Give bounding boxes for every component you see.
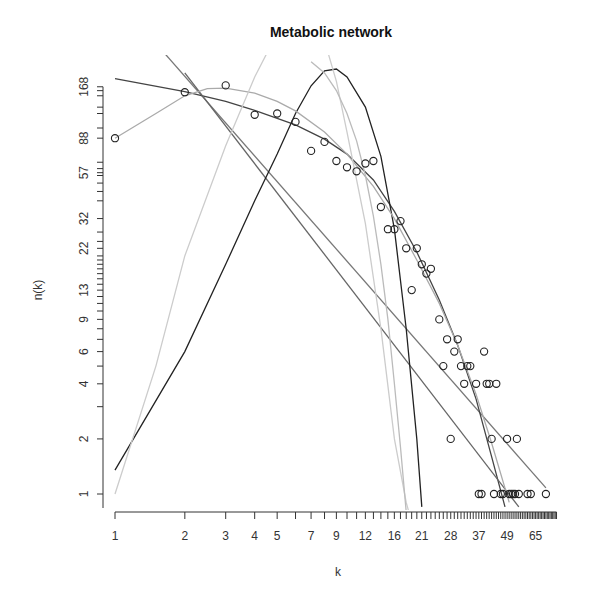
data-point: [444, 336, 451, 343]
data-point: [403, 245, 410, 252]
y-tick-label: 32: [77, 212, 91, 226]
y-tick-label: 4: [77, 380, 91, 387]
y-tick-label: 13: [77, 283, 91, 297]
data-point: [370, 157, 377, 164]
data-point: [461, 380, 468, 387]
data-point: [504, 435, 511, 442]
data-point: [473, 380, 480, 387]
data-point: [408, 287, 415, 294]
y-tick-label: 9: [77, 316, 91, 323]
y-tick-label: 6: [77, 348, 91, 355]
data-point: [493, 380, 500, 387]
fit-curves: [115, 9, 546, 523]
fit-curve: [311, 62, 406, 512]
data-point: [440, 363, 447, 370]
x-tick-label: 16: [388, 529, 402, 543]
x-tick-label: 28: [444, 529, 458, 543]
y-tick-label: 88: [77, 131, 91, 145]
data-point: [490, 490, 497, 497]
data-point: [333, 157, 340, 164]
data-point: [436, 316, 443, 323]
data-point: [274, 110, 281, 117]
data-point: [447, 435, 454, 442]
x-tick-label: 1: [112, 529, 119, 543]
data-point: [481, 348, 488, 355]
x-tick-label: 4: [251, 529, 258, 543]
x-tick-label: 49: [500, 529, 514, 543]
fit-curve: [156, 43, 546, 488]
data-point: [308, 147, 315, 154]
fit-curve: [185, 73, 519, 507]
x-tick-label: 65: [529, 529, 543, 543]
data-point: [542, 490, 549, 497]
fit-curve: [115, 9, 412, 523]
y-tick-label: 2: [77, 435, 91, 442]
data-point: [427, 265, 434, 272]
y-tick-label: 1: [77, 490, 91, 497]
y-tick-label: 168: [77, 76, 91, 96]
x-tick-label: 37: [472, 529, 486, 543]
x-tick-label: 21: [415, 529, 429, 543]
x-tick-label: 9: [333, 529, 340, 543]
fit-curve: [115, 79, 505, 507]
data-point: [377, 203, 384, 210]
data-point: [513, 435, 520, 442]
x-tick-label: 2: [181, 529, 188, 543]
x-axis-label: k: [335, 565, 342, 579]
data-point: [353, 168, 360, 175]
data-point: [343, 164, 350, 171]
x-tick-label: 5: [274, 529, 281, 543]
chart: Metabolic network 124691322325788168 123…: [0, 0, 592, 608]
data-point: [451, 348, 458, 355]
x-axis: 123457912162128374965: [112, 512, 557, 543]
y-axis-label: n(k): [31, 280, 45, 301]
y-tick-label: 57: [77, 166, 91, 180]
data-point: [251, 111, 258, 118]
y-tick-label: 22: [77, 241, 91, 255]
x-tick-label: 12: [359, 529, 373, 543]
fit-curve: [115, 69, 422, 507]
chart-title: Metabolic network: [270, 24, 392, 40]
x-tick-label: 7: [308, 529, 315, 543]
x-tick-label: 3: [222, 529, 229, 543]
data-points: [111, 82, 549, 498]
y-axis: 124691322325788168: [77, 76, 103, 508]
